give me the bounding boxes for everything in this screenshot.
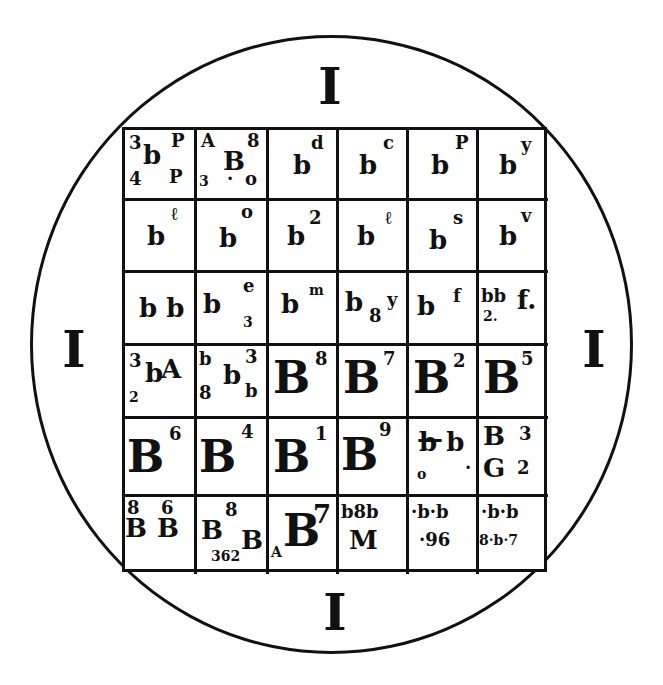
cell-glyph: b (293, 152, 311, 178)
grid-cell-r5-c4: B9 (339, 419, 409, 497)
cell-glyph: b (345, 289, 363, 315)
cell-glyph: · (465, 459, 471, 477)
cell-glyph: b (199, 350, 212, 368)
cell-glyph: b (359, 152, 377, 178)
grid-cell-r3-c3: bm (269, 273, 339, 346)
cell-glyph: e (243, 277, 254, 295)
cell-glyph: b (219, 225, 237, 251)
grid-cell-r2-c4: bℓ (339, 201, 409, 273)
cell-glyph: b (281, 291, 299, 317)
grid-cell-r1-c1: 3bP4P (125, 130, 197, 201)
marker-top: I (315, 62, 345, 112)
cell-glyph: 6 (169, 425, 182, 443)
cell-glyph: y (521, 136, 531, 154)
cell-glyph: f (453, 287, 461, 305)
cell-glyph: b (287, 223, 305, 249)
grid-cell-r6-c5: ·b·b·96 (409, 497, 479, 574)
cell-glyph: P (455, 134, 469, 152)
cell-glyph: 9 (379, 421, 392, 439)
cell-glyph: 1 (315, 425, 328, 443)
cell-glyph: b (143, 142, 161, 168)
cell-glyph: b (223, 362, 241, 388)
cell-glyph: 8 (315, 350, 328, 368)
cell-glyph: B (343, 356, 380, 400)
cell-glyph: 2 (129, 390, 139, 404)
cell-glyph: 8 (225, 501, 238, 519)
cell-glyph: 7 (313, 501, 331, 527)
grid-cell-r4-c4: B7 (339, 346, 409, 419)
cell-glyph: A (161, 356, 181, 382)
cell-glyph: B (273, 356, 310, 400)
cell-glyph: P (169, 168, 183, 186)
cell-glyph: 2 (309, 209, 322, 227)
grid-cell-r5-c2: B4 (197, 419, 269, 497)
grid-cell-r6-c6: ·b·b8·b·7 (479, 497, 548, 574)
cell-glyph: B (483, 423, 505, 449)
cell-glyph: B (341, 433, 378, 477)
cell-glyph: 3 (243, 315, 253, 329)
cell-glyph: B (199, 435, 236, 479)
grid-cell-r6-c2: 8BB362 (197, 497, 269, 574)
cell-glyph: A (271, 545, 282, 559)
grid-cell-r4-c6: B5 (479, 346, 548, 419)
cell-glyph: 8 (247, 132, 260, 150)
cell-glyph: o (245, 170, 257, 188)
grid-cell-r2-c2: bo (197, 201, 269, 273)
cell-glyph: B (413, 356, 450, 400)
grid-cell-r1-c2: A8B3·o (197, 130, 269, 201)
cell-glyph: B (125, 515, 147, 541)
cell-glyph: ·b·b (481, 503, 519, 521)
marker-left: I (59, 325, 89, 375)
cell-glyph: b (357, 223, 375, 249)
cell-glyph: b (429, 227, 447, 253)
cell-glyph: v (521, 207, 531, 225)
grid-cell-r1-c6: by (479, 130, 548, 201)
marker-bottom: I (320, 588, 350, 638)
cell-glyph: 7 (383, 350, 396, 368)
cell-glyph: b (245, 382, 258, 400)
cell-glyph: B (483, 356, 520, 400)
cell-glyph: 2 (517, 459, 530, 477)
cell-glyph: B (241, 527, 263, 553)
grid-cell-r4-c2: b8b3b (197, 346, 269, 419)
cell-glyph: 4 (241, 423, 254, 441)
cell-glyph: 3 (199, 174, 209, 188)
cell-glyph: M (349, 527, 378, 553)
cell-glyph: A (201, 132, 215, 150)
grid-cell-r2-c1: bℓ (125, 201, 197, 273)
cell-glyph: b (499, 223, 517, 249)
cell-glyph: y (387, 291, 397, 309)
cell-glyph: 4 (129, 170, 142, 188)
cell-glyph: b8b (341, 503, 379, 521)
cell-glyph: b (203, 291, 221, 317)
cell-glyph: b (431, 152, 449, 178)
cell-glyph: — (417, 425, 443, 451)
cell-glyph: 8 (369, 307, 382, 325)
cell-glyph: 3 (129, 352, 142, 370)
grid-cell-r3-c4: b8y (339, 273, 409, 346)
cell-glyph: d (311, 134, 324, 152)
cell-glyph: 3 (245, 348, 258, 366)
cell-glyph: G (483, 455, 505, 481)
grid-cell-r5-c3: B1 (269, 419, 339, 497)
cell-glyph: m (309, 283, 324, 297)
cell-glyph: P (171, 132, 185, 150)
cell-glyph: b b (139, 295, 184, 321)
grid-cell-r4-c5: B2 (409, 346, 479, 419)
grid-cell-r1-c4: bc (339, 130, 409, 201)
marker-right: I (579, 325, 609, 375)
grid-cell-r6-c1: 86BB (125, 497, 197, 574)
cell-glyph: ·b·b (411, 503, 449, 521)
grid-cell-r5-c6: B3G2 (479, 419, 548, 497)
cell-glyph: B (157, 515, 179, 541)
cell-glyph: b (417, 293, 435, 319)
grid-cell-r3-c1: b b (125, 273, 197, 346)
cell-glyph: ·96 (419, 531, 450, 549)
cell-glyph: · (227, 170, 233, 188)
cell-glyph: o (241, 203, 253, 221)
cell-glyph: B (127, 435, 164, 479)
cell-glyph: b (147, 223, 165, 249)
grid-cell-r3-c6: bbf.2. (479, 273, 548, 346)
cell-glyph: 362 (211, 549, 240, 563)
cell-glyph: 2 (453, 352, 466, 370)
